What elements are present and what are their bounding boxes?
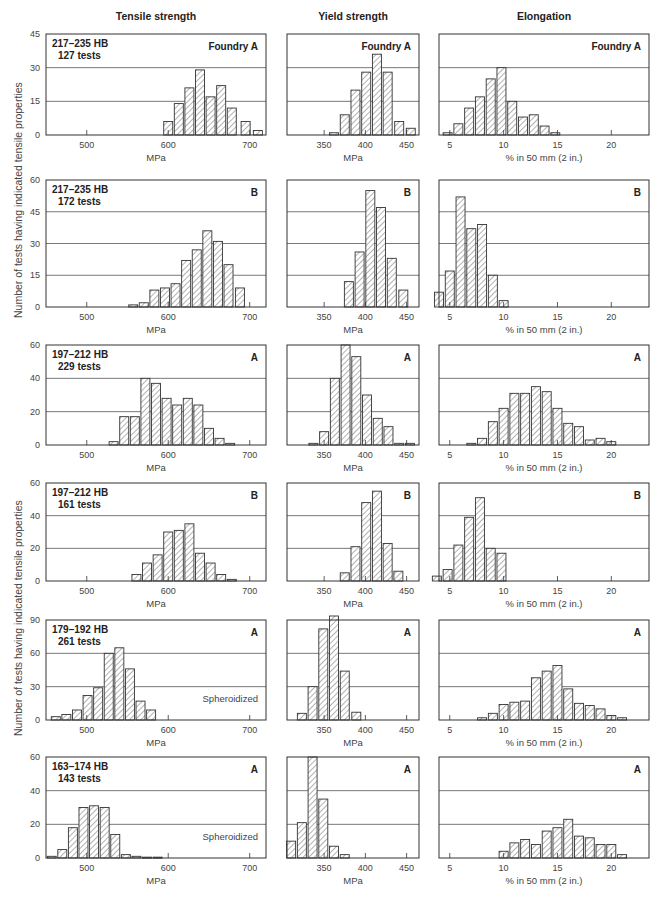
treatment-note: Spheroidized	[203, 831, 258, 842]
foundry-label: B	[404, 187, 411, 198]
histogram-bar	[575, 836, 584, 858]
histogram-bar	[196, 70, 205, 135]
histogram-bar	[351, 547, 360, 581]
histogram-bar	[443, 570, 452, 581]
histogram-bar	[351, 90, 360, 135]
histogram-bar	[235, 288, 244, 307]
histogram-bar	[531, 678, 540, 720]
x-tick-label: 15	[552, 863, 562, 873]
foundry-label: B	[634, 187, 641, 198]
x-tick-label: 600	[161, 450, 176, 460]
hardness-range-label: 163–174 HB	[52, 761, 108, 772]
histogram-bar	[508, 101, 517, 135]
histogram-bar	[478, 438, 487, 445]
histogram-bar	[100, 808, 109, 859]
x-tick-label: 400	[358, 586, 373, 596]
panel-elongation-row-2: 5101520% in 50 mm (2 in.)B	[435, 180, 650, 335]
panel-yield-row-6: 350400450MPaA	[287, 757, 419, 886]
histogram-bar	[366, 191, 375, 307]
panel-tensile-row-5: 500600700MPaA179–192 HB261 testsSpheroid…	[46, 620, 266, 748]
histogram-bar	[185, 88, 194, 135]
y-tick-label: 0	[35, 130, 40, 140]
x-tick-label: 5	[447, 450, 452, 460]
foundry-label: A	[634, 352, 641, 363]
histogram-bar	[465, 517, 474, 581]
x-axis-label: MPa	[146, 598, 166, 609]
histogram-bar	[340, 115, 349, 135]
x-axis-label: % in 50 mm (2 in.)	[505, 875, 582, 886]
x-axis-label: MPa	[146, 462, 166, 473]
panel-tensile-row-1: 500600700MPaFoundry A217–235 HB127 tests	[46, 34, 266, 163]
x-tick-label: 450	[399, 586, 414, 596]
y-tick-label: 40	[30, 511, 40, 521]
y-tick-label: 40	[30, 373, 40, 383]
panel-tensile-row-6: 500600700MPaA163–174 HB143 testsSpheroid…	[46, 757, 266, 886]
test-count-label: 127 tests	[58, 50, 101, 61]
histogram-bar	[488, 275, 497, 307]
x-tick-label: 700	[242, 863, 257, 873]
histogram-bar	[62, 714, 71, 720]
x-tick-label: 350	[317, 863, 332, 873]
y-tick-label: 40	[30, 786, 40, 796]
x-tick-label: 20	[606, 312, 616, 322]
histogram-bar	[575, 427, 584, 445]
histogram-bar	[521, 701, 530, 720]
y-tick-label: 20	[30, 407, 40, 417]
treatment-note: Spheroidized	[203, 693, 258, 704]
x-tick-label: 400	[358, 863, 373, 873]
x-axis-label: % in 50 mm (2 in.)	[505, 324, 582, 335]
histogram-bar	[139, 303, 148, 307]
x-axis-label: MPa	[146, 737, 166, 748]
x-axis-label: MPa	[146, 152, 166, 163]
y-tick-label: 0	[35, 853, 40, 863]
histogram-bar	[174, 530, 183, 581]
histogram-bar	[575, 703, 584, 720]
histogram-bar	[344, 282, 353, 307]
x-tick-label: 450	[399, 863, 414, 873]
panel-yield-row-5: 350400450MPaA	[287, 616, 419, 748]
histogram-bar	[542, 831, 551, 858]
histogram-bar	[319, 629, 328, 720]
x-tick-label: 5	[447, 863, 452, 873]
foundry-label: A	[251, 627, 258, 638]
x-axis-label: % in 50 mm (2 in.)	[505, 598, 582, 609]
histogram-bar	[183, 398, 192, 445]
histogram-bar	[531, 845, 540, 858]
histogram-bar	[445, 271, 454, 307]
histogram-bar	[372, 491, 381, 581]
x-tick-label: 600	[161, 586, 176, 596]
histogram-bar	[618, 855, 627, 858]
histogram-bar	[478, 224, 487, 307]
x-tick-label: 400	[358, 450, 373, 460]
panel-yield-row-4: 350400450MPaB	[287, 483, 419, 609]
y-tick-label: 90	[30, 615, 40, 625]
y-tick-label: 20	[30, 819, 40, 829]
x-tick-label: 700	[242, 312, 257, 322]
histogram-bar	[542, 392, 551, 445]
x-tick-label: 350	[317, 725, 332, 735]
y-tick-label: 0	[35, 576, 40, 586]
histogram-bar	[79, 808, 88, 859]
hardness-range-label: 217–235 HB	[52, 38, 108, 49]
histogram-bar	[224, 265, 233, 307]
foundry-label: A	[634, 627, 641, 638]
histogram-bar	[341, 345, 350, 445]
histogram-bar	[486, 548, 495, 581]
histogram-bar	[488, 713, 497, 720]
histogram-bar	[340, 573, 349, 581]
x-tick-label: 350	[317, 450, 332, 460]
histogram-bar	[373, 418, 382, 445]
panel-elongation-row-5: 5101520% in 50 mm (2 in.)A	[439, 620, 649, 748]
x-tick-label: 400	[358, 725, 373, 735]
histogram-bar	[596, 845, 605, 858]
x-tick-label: 700	[242, 140, 257, 150]
x-tick-label: 350	[317, 312, 332, 322]
histogram-bar	[297, 713, 306, 720]
test-count-label: 161 tests	[58, 499, 101, 510]
histogram-bar	[352, 712, 361, 720]
histogram-bar	[488, 422, 497, 445]
histogram-bar	[90, 806, 99, 858]
histogram-bar	[173, 405, 182, 445]
x-axis-label: MPa	[343, 462, 363, 473]
foundry-label: Foundry A	[361, 41, 411, 52]
